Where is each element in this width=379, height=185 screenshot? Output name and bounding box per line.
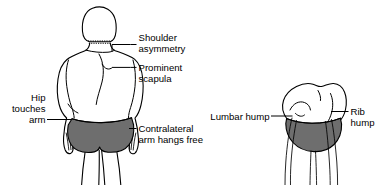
contralateral-arm-line2: arm hangs free [139, 134, 204, 145]
label-lumbar-hump: Lumbar hump [210, 111, 269, 122]
shoulder-asymmetry-line2: asymmetry [139, 43, 186, 54]
rib-hump-line2: hump [351, 117, 375, 128]
hip-touches-arm-line3: arm [29, 114, 46, 125]
hip-touches-arm-line1: Hip [31, 92, 45, 103]
prominent-scapula-line2: scapula [139, 73, 173, 84]
prominent-scapula-line1: Prominent [139, 62, 183, 73]
hip-touches-arm-line2: touches [12, 103, 46, 114]
head-outline [82, 7, 116, 42]
shoulder-asymmetry-line1: Shoulder [139, 32, 178, 43]
lumbar-hump-line1: Lumbar hump [210, 111, 269, 122]
contralateral-arm-line1: Contralateral [139, 123, 194, 134]
illustration-canvas: Shoulder asymmetry Prominent scapula Hip… [0, 0, 379, 185]
scoliosis-illustration: Shoulder asymmetry Prominent scapula Hip… [0, 0, 379, 185]
bending-back-outline [283, 83, 347, 120]
rib-hump-line1: Rib [351, 106, 365, 117]
label-contralateral-arm: Contralateral arm hangs free [139, 123, 204, 145]
